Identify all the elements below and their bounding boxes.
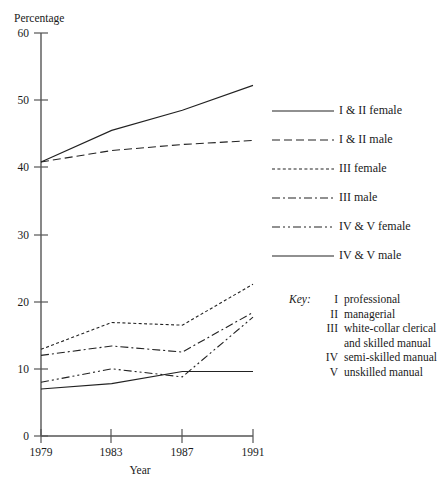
x-axis-title: Year bbox=[129, 464, 150, 476]
key-title: Key: bbox=[289, 292, 316, 307]
legend-line-sample-dashed bbox=[272, 134, 334, 146]
legend-item-label: I & II female bbox=[339, 103, 402, 118]
y-axis-title: Percentage bbox=[14, 12, 64, 25]
y-tick-label: 40 bbox=[18, 161, 30, 173]
data-series-group bbox=[41, 85, 253, 389]
legend-line-sample-solid bbox=[272, 250, 334, 262]
y-tick-label: 50 bbox=[18, 94, 30, 106]
legend-item: III female bbox=[272, 154, 448, 183]
data-series-line bbox=[41, 372, 253, 389]
legend-item-label: I & II male bbox=[339, 132, 393, 147]
y-tick-label: 0 bbox=[23, 430, 29, 442]
x-axis-tick-labels: 1979 1983 1987 1991 bbox=[30, 446, 265, 458]
key-entry: III white-collar clerical bbox=[289, 321, 448, 336]
key-block: Key: I professional II managerial III wh… bbox=[289, 292, 448, 380]
key-description: managerial bbox=[344, 307, 448, 322]
key-description: unskilled manual bbox=[344, 365, 448, 380]
key-entry: IV semi-skilled manual bbox=[289, 350, 448, 365]
legend-item: I & II female bbox=[272, 96, 448, 125]
key-description-continued: and skilled manual bbox=[344, 336, 448, 351]
y-axis-tick-labels: 60 50 40 30 20 10 0 bbox=[18, 27, 30, 442]
data-series-line bbox=[41, 312, 253, 355]
key-entry: V unskilled manual bbox=[289, 365, 448, 380]
legend-item-label: III male bbox=[339, 190, 377, 205]
key-numeral: II bbox=[316, 307, 344, 322]
legend-item-label: IV & V female bbox=[339, 219, 411, 234]
legend-item-label: III female bbox=[339, 161, 387, 176]
y-tick-label: 20 bbox=[18, 296, 30, 308]
legend-item: IV & V female bbox=[272, 212, 448, 241]
key-entry-continuation: and skilled manual bbox=[289, 336, 448, 351]
key-description: semi-skilled manual bbox=[344, 350, 448, 365]
y-tick-label: 60 bbox=[18, 27, 30, 39]
legend-line-sample-solid bbox=[272, 105, 334, 117]
legend-item: I & II male bbox=[272, 125, 448, 154]
key-description: professional bbox=[344, 292, 448, 307]
data-series-line bbox=[41, 317, 253, 382]
data-series-line bbox=[41, 140, 253, 161]
key-entry: II managerial bbox=[289, 307, 448, 322]
chart-legend: I & II female I & II male III female III… bbox=[272, 96, 448, 270]
x-tick-label: 1991 bbox=[242, 446, 265, 458]
key-numeral: V bbox=[316, 365, 344, 380]
legend-line-sample-dotted bbox=[272, 163, 334, 175]
data-series-line bbox=[41, 284, 253, 349]
x-tick-label: 1987 bbox=[171, 446, 194, 458]
key-numeral: III bbox=[316, 321, 344, 336]
chart-page: Percentage 60 50 40 30 20 10 0 bbox=[0, 0, 448, 480]
key-numeral: I bbox=[316, 292, 344, 307]
y-tick-label: 30 bbox=[18, 229, 30, 241]
y-tick-label: 10 bbox=[18, 363, 30, 375]
key-description: white-collar clerical bbox=[344, 321, 448, 336]
x-tick-label: 1979 bbox=[30, 446, 53, 458]
key-numeral: IV bbox=[316, 350, 344, 365]
legend-item: III male bbox=[272, 183, 448, 212]
legend-line-sample-dashdot bbox=[272, 192, 334, 204]
legend-item-label: IV & V male bbox=[339, 248, 401, 263]
x-tick-label: 1983 bbox=[100, 446, 123, 458]
key-entry: Key: I professional bbox=[289, 292, 448, 307]
data-series-line bbox=[41, 85, 253, 162]
legend-line-sample-dashdotdot bbox=[272, 221, 334, 233]
legend-item: IV & V male bbox=[272, 241, 448, 270]
